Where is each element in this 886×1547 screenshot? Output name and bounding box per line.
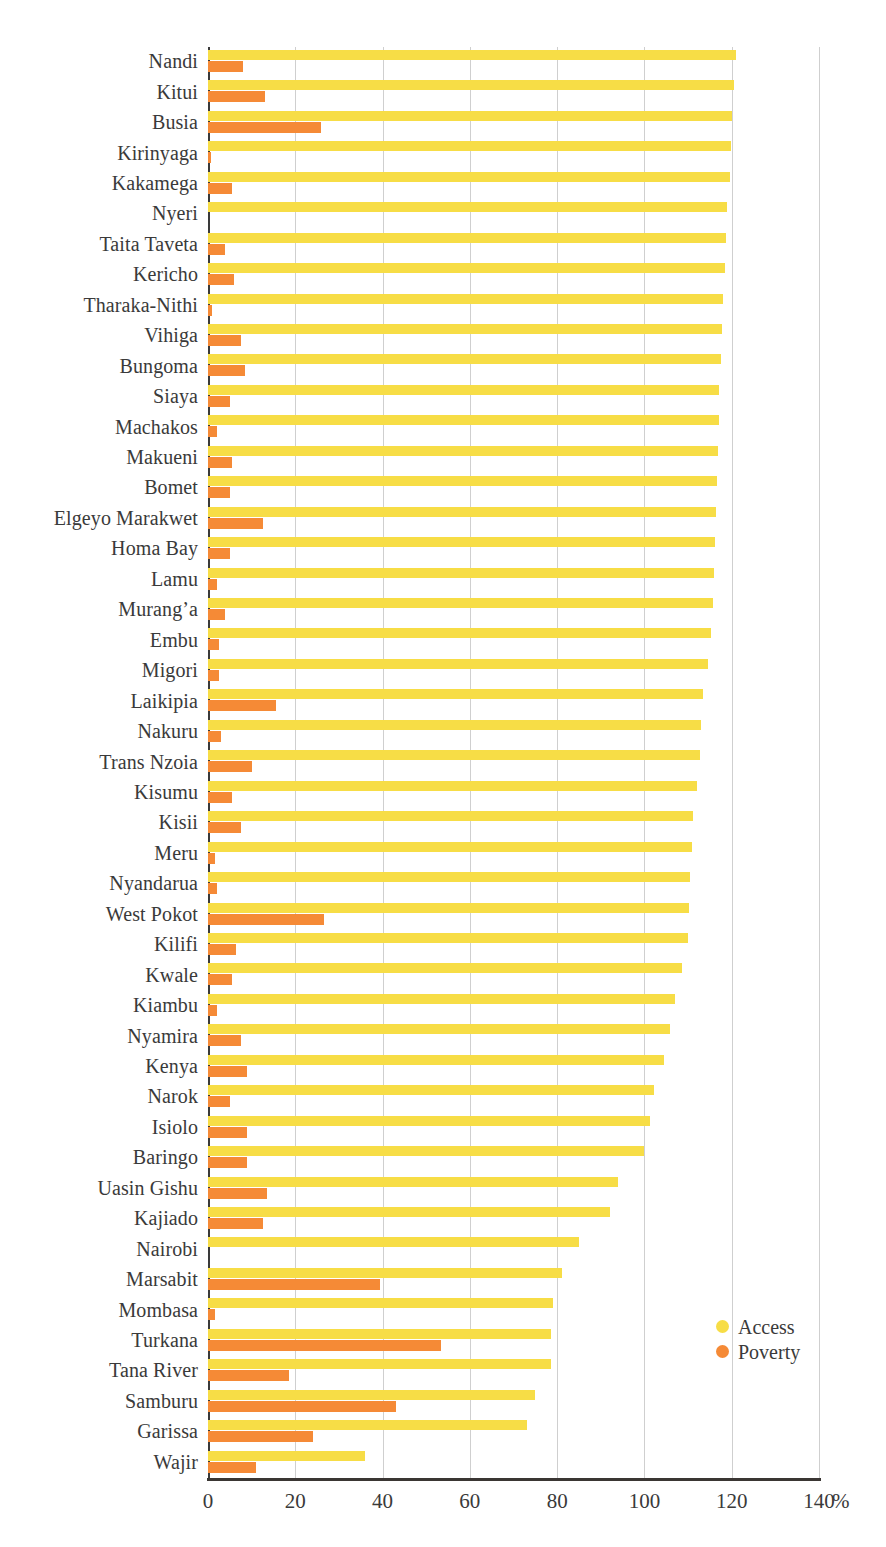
bar-poverty[interactable] (208, 609, 225, 620)
bar-poverty[interactable] (208, 396, 230, 407)
bar-poverty[interactable] (208, 1218, 263, 1229)
bar-access[interactable] (208, 872, 690, 882)
bar-access[interactable] (208, 1268, 562, 1278)
bar-access[interactable] (208, 1207, 610, 1217)
legend-item-access[interactable]: Access (716, 1314, 800, 1339)
bar-access[interactable] (208, 1298, 553, 1308)
legend-item-poverty[interactable]: Poverty (716, 1339, 800, 1364)
bar-poverty[interactable] (208, 792, 232, 803)
bar-access[interactable] (208, 659, 708, 669)
bar-poverty[interactable] (208, 1462, 256, 1473)
gridline-140 (819, 47, 820, 1478)
bar-row (208, 930, 819, 960)
bar-poverty[interactable] (208, 1127, 247, 1138)
bar-poverty[interactable] (208, 365, 245, 376)
bar-poverty[interactable] (208, 1096, 230, 1107)
bar-access[interactable] (208, 1055, 664, 1065)
bar-access[interactable] (208, 720, 701, 730)
bar-poverty[interactable] (208, 1279, 380, 1290)
bar-poverty[interactable] (208, 274, 234, 285)
bar-access[interactable] (208, 689, 703, 699)
bar-access[interactable] (208, 111, 732, 121)
bar-access[interactable] (208, 415, 719, 425)
bar-poverty[interactable] (208, 700, 276, 711)
bar-poverty[interactable] (208, 944, 236, 955)
bar-access[interactable] (208, 1116, 650, 1126)
bar-poverty[interactable] (208, 1066, 247, 1077)
bar-poverty[interactable] (208, 1188, 267, 1199)
bar-access[interactable] (208, 233, 726, 243)
bar-access[interactable] (208, 1390, 535, 1400)
bar-poverty[interactable] (208, 335, 241, 346)
bar-access[interactable] (208, 1420, 527, 1430)
bar-poverty[interactable] (208, 883, 217, 894)
bar-access[interactable] (208, 354, 721, 364)
bar-access[interactable] (208, 628, 711, 638)
bar-access[interactable] (208, 202, 727, 212)
bar-access[interactable] (208, 1329, 551, 1339)
bar-access[interactable] (208, 842, 692, 852)
bar-access[interactable] (208, 446, 718, 456)
bar-access[interactable] (208, 963, 682, 973)
bar-access[interactable] (208, 1024, 670, 1034)
bar-access[interactable] (208, 933, 688, 943)
bar-poverty[interactable] (208, 1035, 241, 1046)
bar-access[interactable] (208, 141, 731, 151)
bar-access[interactable] (208, 385, 719, 395)
bar-poverty[interactable] (208, 1157, 247, 1168)
bar-access[interactable] (208, 263, 725, 273)
category-label-tana-river: Tana River (0, 1360, 198, 1380)
bar-poverty[interactable] (208, 91, 265, 102)
bar-poverty[interactable] (208, 548, 230, 559)
legend-label-poverty: Poverty (738, 1342, 800, 1362)
bar-poverty[interactable] (208, 639, 219, 650)
bar-poverty[interactable] (208, 1005, 217, 1016)
bar-poverty[interactable] (208, 761, 252, 772)
bar-access[interactable] (208, 1085, 654, 1095)
bar-poverty[interactable] (208, 579, 217, 590)
category-label-kajiado: Kajiado (0, 1208, 198, 1228)
bar-poverty[interactable] (208, 244, 225, 255)
bar-poverty[interactable] (208, 822, 241, 833)
bar-access[interactable] (208, 1359, 551, 1369)
bar-access[interactable] (208, 903, 689, 913)
bar-poverty[interactable] (208, 518, 263, 529)
bar-poverty[interactable] (208, 1370, 289, 1381)
bar-poverty[interactable] (208, 457, 232, 468)
bar-access[interactable] (208, 1177, 618, 1187)
bar-poverty[interactable] (208, 426, 217, 437)
legend-label-access: Access (738, 1317, 795, 1337)
bar-access[interactable] (208, 1451, 365, 1461)
bar-poverty[interactable] (208, 853, 215, 864)
bar-access[interactable] (208, 811, 693, 821)
bar-poverty[interactable] (208, 1340, 441, 1351)
bar-poverty[interactable] (208, 731, 221, 742)
bar-access[interactable] (208, 781, 697, 791)
bar-poverty[interactable] (208, 1401, 396, 1412)
bar-poverty[interactable] (208, 1309, 215, 1320)
bar-poverty[interactable] (208, 1431, 313, 1442)
bar-poverty[interactable] (208, 122, 321, 133)
bar-access[interactable] (208, 294, 723, 304)
bar-access[interactable] (208, 507, 716, 517)
bar-access[interactable] (208, 994, 675, 1004)
bar-access[interactable] (208, 324, 722, 334)
bar-poverty[interactable] (208, 974, 232, 985)
bar-poverty[interactable] (208, 487, 230, 498)
bar-access[interactable] (208, 172, 730, 182)
bar-access[interactable] (208, 598, 713, 608)
bar-access[interactable] (208, 476, 717, 486)
bar-poverty[interactable] (208, 914, 324, 925)
bar-poverty[interactable] (208, 152, 211, 163)
bar-access[interactable] (208, 750, 700, 760)
bar-access[interactable] (208, 50, 736, 60)
bar-poverty[interactable] (208, 305, 212, 316)
bar-access[interactable] (208, 1146, 644, 1156)
bar-poverty[interactable] (208, 183, 232, 194)
bar-poverty[interactable] (208, 61, 243, 72)
bar-access[interactable] (208, 1237, 579, 1247)
bar-access[interactable] (208, 568, 714, 578)
bar-poverty[interactable] (208, 670, 219, 681)
bar-access[interactable] (208, 537, 715, 547)
bar-access[interactable] (208, 80, 734, 90)
